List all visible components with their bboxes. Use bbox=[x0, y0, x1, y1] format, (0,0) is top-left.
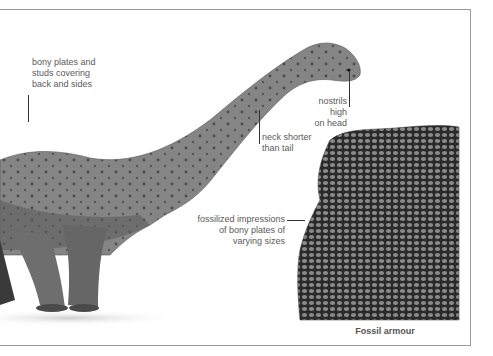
annotation-neck: neck shorter than tail bbox=[262, 132, 312, 154]
leader-fossil-impressions bbox=[287, 220, 305, 221]
leader-bony-plates bbox=[28, 95, 29, 122]
annotation-fossil-impressions: fossilized impressions of bony plates of… bbox=[180, 214, 285, 247]
leader-neck bbox=[259, 110, 260, 144]
dinosaur-rear-leg bbox=[62, 225, 108, 307]
annotation-nostrils: nostrils high on head bbox=[300, 96, 347, 129]
annotation-bony-plates: bony plates and studs covering back and … bbox=[32, 57, 96, 90]
dinosaur-illustration bbox=[0, 0, 493, 356]
fossil-armour-caption: Fossil armour bbox=[300, 326, 470, 336]
leader-nostrils bbox=[349, 71, 350, 107]
fossil-armour-image bbox=[298, 125, 459, 320]
